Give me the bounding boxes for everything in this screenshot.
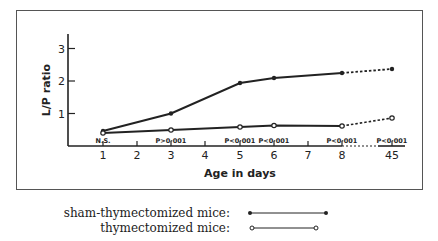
svg-text:N.S.: N.S.: [95, 137, 110, 145]
svg-text:P>0·001: P>0·001: [156, 137, 187, 145]
svg-text:2: 2: [58, 75, 65, 88]
svg-text:P<0·001: P<0·001: [259, 137, 290, 145]
svg-text:5: 5: [237, 149, 244, 162]
y-tick-labels: 1 2 3: [58, 43, 65, 121]
svg-text:P<0·001: P<0·001: [377, 137, 408, 145]
svg-text:3: 3: [58, 43, 65, 56]
svg-text:6: 6: [271, 149, 278, 162]
y-ticks: [68, 49, 75, 114]
series-thymectomized: [101, 116, 394, 135]
y-axis-label: L/P ratio: [40, 63, 53, 116]
significance-annotations: N.S. P>0·001 P<0·001 P<0·001 P<0·001 P<0…: [95, 137, 407, 145]
legend-label: thymectomized mice:: [100, 221, 230, 235]
x-tick-labels: 1 2 3 4 5 6 7 8 45: [100, 149, 400, 162]
legend-item-sham: sham-thymectomized mice:: [80, 205, 230, 221]
svg-text:8: 8: [339, 149, 346, 162]
legend: sham-thymectomized mice: thymectomized m…: [0, 199, 438, 239]
legend-label: sham-thymectomized mice:: [64, 206, 230, 220]
legend-item-thymectomized: thymectomized mice:: [80, 220, 230, 236]
series-sham-thymectomized: [101, 67, 394, 133]
svg-text:3: 3: [168, 149, 175, 162]
svg-text:2: 2: [134, 149, 141, 162]
svg-text:4: 4: [202, 149, 209, 162]
svg-text:P<0·001: P<0·001: [225, 137, 256, 145]
svg-text:7: 7: [305, 149, 312, 162]
x-axis-label: Age in days: [204, 167, 276, 180]
svg-text:1: 1: [100, 149, 107, 162]
svg-text:P<0·001: P<0·001: [327, 137, 358, 145]
svg-text:1: 1: [58, 108, 65, 121]
svg-text:45: 45: [385, 149, 399, 162]
